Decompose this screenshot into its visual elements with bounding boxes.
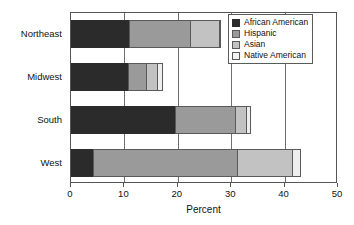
bar-segment [71,63,129,91]
x-tick-label-0: 0 [67,188,72,199]
bar-segment [175,106,236,134]
legend-swatch-icon [232,41,240,49]
legend-item[interactable]: African American [232,17,308,28]
x-tick-label-10: 10 [118,188,129,199]
bar-segment [157,63,163,91]
x-tick-label-30: 30 [225,188,236,199]
x-tick-mark-40 [284,183,285,187]
legend-label: Native American [244,51,306,60]
bar-segment [93,149,238,177]
bar-row [71,63,336,91]
y-axis-labels: NortheastMidwestSouthWest [0,12,66,183]
legend-swatch-icon [232,19,240,27]
legend-item[interactable]: Asian [232,39,308,50]
x-tick-mark-10 [123,183,124,187]
y-axis-label-south: South [37,113,62,124]
legend-item[interactable]: Native American [232,50,308,61]
bar-segment [129,20,191,48]
chart-root: NortheastMidwestSouthWest 01020304050 Pe… [0,0,354,225]
y-axis-label-west: West [41,156,62,167]
bar-segment [292,149,301,177]
legend: African AmericanHispanicAsianNative Amer… [228,14,313,64]
x-tick-label-40: 40 [278,188,289,199]
x-tick-mark-20 [177,183,178,187]
stacked-bar [71,149,300,177]
x-tick-mark-0 [70,183,71,187]
legend-label: Asian [244,40,265,49]
bar-segment [128,63,148,91]
legend-swatch-icon [232,52,240,60]
stacked-bar [71,20,220,48]
x-tick-mark-50 [337,183,338,187]
legend-swatch-icon [232,30,240,38]
x-tick-label-20: 20 [172,188,183,199]
bar-row [71,149,336,177]
x-tick-label-50: 50 [332,188,343,199]
bar-segment [71,149,94,177]
bar-segment [219,20,221,48]
y-axis-label-northeast: Northeast [21,28,62,39]
legend-label: African American [244,18,308,27]
x-tick-mark-30 [230,183,231,187]
stacked-bar [71,106,250,134]
bar-segment [190,20,220,48]
legend-label: Hispanic [244,29,277,38]
x-axis-title: Percent [70,204,337,215]
legend-item[interactable]: Hispanic [232,28,308,39]
bar-row [71,106,336,134]
bar-segment [71,106,176,134]
bar-segment [71,20,130,48]
y-axis-label-midwest: Midwest [27,71,62,82]
bar-segment [246,106,251,134]
bar-segment [237,149,293,177]
stacked-bar [71,63,162,91]
